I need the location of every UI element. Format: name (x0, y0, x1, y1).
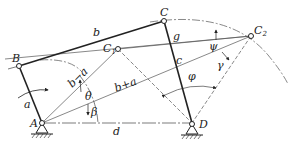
link-a (19, 66, 42, 123)
label-theta: θ (85, 90, 92, 103)
phi-arc (165, 86, 216, 95)
link-b (19, 21, 164, 66)
rocker-c2-d (192, 36, 251, 123)
label-g: g (173, 30, 180, 43)
line-c1-c2 (118, 36, 251, 49)
label-b-point: B (11, 52, 20, 65)
label-gamma: γ (217, 59, 224, 72)
label-link-c: c (176, 54, 182, 67)
label-d-point: D (198, 118, 208, 131)
label-beta: β (90, 106, 97, 119)
label-c-point: C (160, 6, 169, 19)
label-phi: φ (188, 70, 196, 83)
joint-c2 (249, 34, 254, 39)
rotation-arrow-icon (18, 90, 48, 98)
label-b-plus-a: b+a (113, 75, 139, 95)
label-b-minus-a: b−a (65, 65, 90, 90)
joint-c1 (116, 47, 121, 52)
four-bar-linkage-diagram: A B C C1 C2 D a b c d b−a b+a g θ β ψ γ … (0, 0, 295, 150)
joint-c (162, 19, 167, 24)
label-link-b: b (93, 26, 100, 39)
label-c1-point: C1 (103, 42, 116, 56)
line-a-c1 (42, 49, 118, 123)
label-link-a: a (24, 98, 31, 111)
label-link-d: d (113, 125, 120, 138)
rocker-arc (150, 19, 288, 84)
label-c2-point: C2 (254, 24, 267, 38)
label-psi: ψ (209, 40, 218, 53)
label-a-point: A (29, 117, 38, 130)
